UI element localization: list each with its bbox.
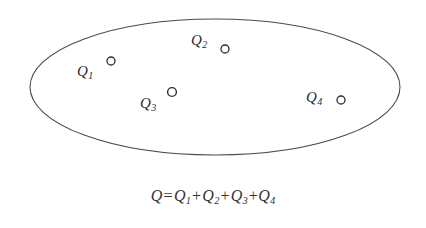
equation-plus-1: + <box>191 187 202 204</box>
charge-label-q2-base: Q <box>191 32 202 48</box>
charge-label-q1-subscript: 1 <box>88 70 93 81</box>
charge-label-q3-subscript: 3 <box>151 102 156 113</box>
charge-label-q4: Q4 <box>306 90 322 107</box>
charge-label-q3: Q3 <box>140 96 156 113</box>
equation-term-2-base: Q <box>202 187 214 204</box>
charge-label-q4-subscript: 4 <box>317 96 322 107</box>
charge-label-q2-subscript: 2 <box>202 39 207 50</box>
charge-label-q3-base: Q <box>140 95 151 111</box>
charge-marker-q1 <box>107 57 115 65</box>
closed-surface-ellipse <box>30 19 400 155</box>
physics-diagram-figure: Q1 Q2 Q3 Q4 Q=Q1+Q2+Q3+Q4 <box>0 0 426 228</box>
equation-lhs: Q <box>151 187 163 204</box>
equation-term-1-base: Q <box>174 187 186 204</box>
charge-label-q4-base: Q <box>306 89 317 105</box>
equation-term-4-subscript: 4 <box>270 195 275 206</box>
equation-plus-2: + <box>219 187 230 204</box>
charge-label-q2: Q2 <box>191 33 207 50</box>
equation-equals-sign: = <box>163 187 174 204</box>
total-charge-equation: Q=Q1+Q2+Q3+Q4 <box>0 188 426 206</box>
equation-term-4-base: Q <box>258 187 270 204</box>
charge-label-q1-base: Q <box>77 63 88 79</box>
charge-marker-q3 <box>168 88 177 97</box>
charge-marker-q4 <box>337 96 345 104</box>
equation-term-3-base: Q <box>231 187 243 204</box>
charge-marker-q2 <box>221 45 229 53</box>
charge-label-q1: Q1 <box>77 64 93 81</box>
